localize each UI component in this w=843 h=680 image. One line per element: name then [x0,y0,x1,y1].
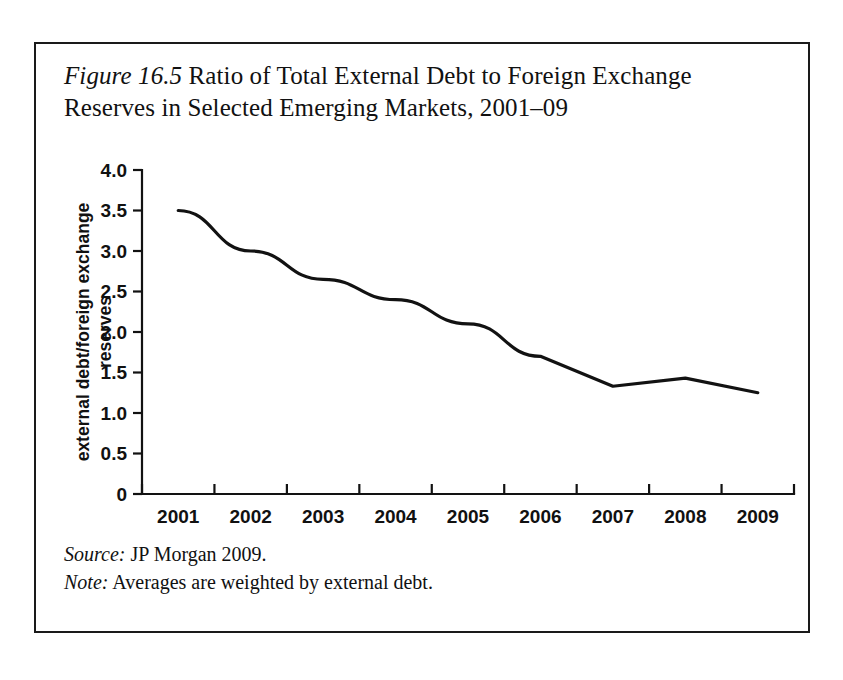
y-axis-tick-label: 0 [116,484,127,505]
figure-notes: Source: JP Morgan 2009. Note: Averages a… [64,540,764,597]
note-value: Averages are weighted by external debt. [108,571,433,593]
source-line: Source: JP Morgan 2009. [64,540,764,568]
y-axis-tick-label: 0.5 [101,443,128,464]
note-line: Note: Averages are weighted by external … [64,568,764,596]
y-axis-tick-label: 3.5 [101,200,128,221]
chart-axes [142,170,794,494]
y-axis-tick-label: 4.0 [101,160,127,181]
x-axis-tick-label: 2002 [230,506,272,527]
x-axis-tick-label: 2003 [302,506,344,527]
note-label: Note: [64,571,108,593]
y-axis-tick-label: 3.0 [101,241,127,262]
x-axis-tick-label: 2005 [447,506,490,527]
source-label: Source: [64,543,125,565]
x-axis-tick-label: 2001 [157,506,200,527]
x-axis-tick-label: 2008 [664,506,706,527]
x-axis-tick-label: 2006 [519,506,561,527]
figure-frame: Figure 16.5 Ratio of Total External Debt… [34,42,810,633]
x-axis-tick-label: 2004 [374,506,417,527]
x-axis-tick-label: 2007 [592,506,634,527]
x-axis-tick-label: 2009 [737,506,779,527]
y-axis-tick-label: 1.0 [101,403,127,424]
y-axis-title-line: reserves [95,296,115,368]
source-value: JP Morgan 2009. [125,543,266,565]
y-axis-title-line: external debt/foreign exchange [73,202,93,461]
data-series-line [178,211,758,393]
